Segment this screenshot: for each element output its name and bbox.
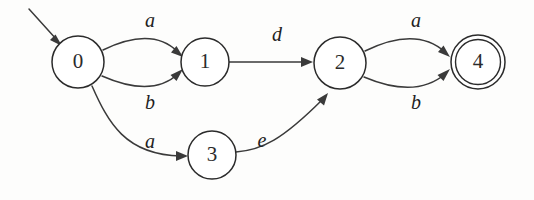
edge-label-0-3-a: a bbox=[145, 130, 155, 152]
transition-1-2-d bbox=[229, 57, 313, 67]
transition-0-1-b-line bbox=[102, 74, 178, 87]
state-4-label: 4 bbox=[473, 49, 484, 73]
state-2-label: 2 bbox=[335, 50, 346, 74]
transition-2-4-b-line bbox=[364, 74, 445, 87]
transition-2-4-a-line bbox=[365, 39, 445, 52]
edge-label-2-4-b: b bbox=[411, 91, 421, 113]
state-node-1[interactable]: 1 bbox=[181, 38, 229, 86]
edge-label-1-2-d: d bbox=[272, 23, 283, 45]
transition-3-2-e bbox=[236, 93, 328, 152]
transition-3-2-e-line bbox=[236, 99, 323, 152]
transition-0-1-b bbox=[102, 69, 183, 87]
edge-label-2-4-a: a bbox=[411, 9, 421, 31]
transition-0-1-a-line bbox=[103, 38, 178, 52]
transition-2-4-b-arrowhead bbox=[438, 69, 451, 81]
start-arrow bbox=[29, 9, 62, 46]
automaton-figure: 0 1 2 3 4 a b d a e a b bbox=[0, 0, 534, 200]
transition-0-3-a-line bbox=[92, 86, 181, 156]
edge-label-0-1-a: a bbox=[145, 9, 155, 31]
start-arrow-line bbox=[29, 9, 57, 40]
state-node-4[interactable]: 4 bbox=[451, 35, 505, 89]
transition-0-3-a-arrowhead bbox=[176, 151, 188, 161]
state-node-2[interactable]: 2 bbox=[314, 37, 366, 89]
state-3-label: 3 bbox=[207, 142, 218, 166]
transition-2-4-a bbox=[365, 39, 450, 57]
state-0-label: 0 bbox=[73, 49, 84, 73]
transition-2-4-b bbox=[364, 69, 450, 87]
state-node-3[interactable]: 3 bbox=[188, 131, 236, 179]
state-1-label: 1 bbox=[200, 49, 211, 73]
edge-label-3-2-e: e bbox=[258, 129, 267, 151]
transition-0-1-a bbox=[103, 38, 183, 57]
state-node-0[interactable]: 0 bbox=[52, 36, 104, 88]
transition-1-2-d-arrowhead bbox=[301, 57, 313, 67]
fsm-canvas: 0 1 2 3 4 a b d a e a b bbox=[0, 0, 534, 200]
transition-0-3-a bbox=[92, 86, 188, 161]
edge-label-0-1-b: b bbox=[145, 91, 155, 113]
